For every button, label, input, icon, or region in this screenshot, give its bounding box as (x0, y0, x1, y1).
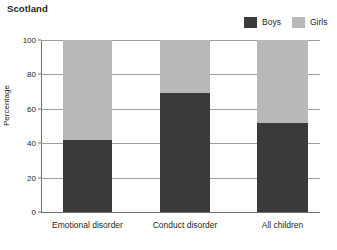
chart-title: Scotland (7, 3, 48, 14)
legend-label-girls: Girls (310, 17, 327, 28)
x-axis-tick-label: All children (262, 220, 304, 230)
bar-stack[interactable] (160, 40, 210, 212)
plot-area: 020406080100 (41, 40, 320, 212)
y-axis-title: Percentage (2, 85, 11, 126)
bar-segment-boys[interactable] (63, 140, 112, 212)
x-axis-tick-label: Conduct disorder (153, 220, 218, 230)
legend-item-girls: Girls (292, 17, 327, 28)
y-axis-tick-label: 20 (27, 173, 41, 182)
y-axis-tick-label: 60 (27, 104, 41, 113)
y-axis-tick-label: 0 (32, 208, 41, 217)
bar-stack[interactable] (63, 40, 112, 212)
x-axis-tick-label: Emotional disorder (52, 220, 123, 230)
legend-item-boys: Boys (244, 17, 281, 28)
bar-segment-girls[interactable] (63, 40, 112, 140)
y-axis-line (41, 40, 42, 212)
chart-container: Scotland Boys Girls Percentage 020406080… (0, 0, 337, 250)
bar-segment-boys[interactable] (160, 93, 210, 212)
legend-label-boys: Boys (262, 17, 281, 28)
x-axis-line (41, 212, 320, 213)
bar-segment-boys[interactable] (257, 123, 308, 212)
bar-segment-girls[interactable] (257, 40, 308, 123)
y-axis-tick-label: 40 (27, 139, 41, 148)
bar-segment-girls[interactable] (160, 40, 210, 93)
legend-swatch-girls (292, 17, 305, 28)
y-axis-tick-label: 80 (27, 70, 41, 79)
bar-stack[interactable] (257, 40, 308, 212)
y-axis-tick-label: 100 (23, 36, 41, 45)
chart-legend: Boys Girls (244, 16, 327, 29)
legend-swatch-boys (244, 17, 257, 28)
